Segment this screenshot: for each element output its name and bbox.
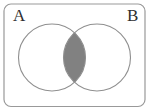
set-b-label: B — [127, 6, 138, 25]
venn-figure: A B — [0, 0, 149, 110]
set-a-label: A — [13, 6, 26, 25]
venn-diagram: A B — [0, 0, 149, 110]
